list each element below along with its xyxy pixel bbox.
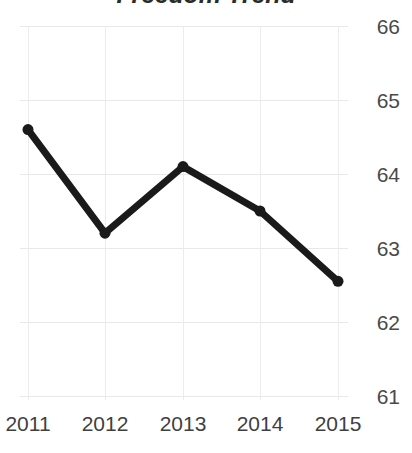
plot-area: 66 65 64 63 62 61 2011 2012 2013 2014 20…	[0, 0, 412, 453]
ytick-label-66: 66	[352, 16, 400, 37]
chart-screenshot: Freedom Trend 66 65 64 63 62 61 2011 201…	[0, 0, 412, 453]
xtick-label-2012: 2012	[65, 412, 145, 436]
series-line-freedom-trend	[0, 0, 412, 453]
ytick-label-64: 64	[352, 164, 400, 185]
xtick-label-2013: 2013	[143, 412, 223, 436]
data-point-2015	[333, 276, 344, 287]
xtick-label-2014: 2014	[220, 412, 300, 436]
line-path	[28, 130, 338, 282]
data-point-2011	[23, 124, 34, 135]
ytick-label-62: 62	[352, 312, 400, 333]
xtick-label-2011: 2011	[0, 412, 68, 436]
data-point-2012	[100, 228, 111, 239]
data-point-2014	[255, 206, 266, 217]
data-point-2013	[178, 161, 189, 172]
ytick-label-65: 65	[352, 90, 400, 111]
xtick-label-2015: 2015	[298, 412, 378, 436]
ytick-label-63: 63	[352, 238, 400, 259]
marker-group	[23, 124, 344, 287]
ytick-label-61: 61	[352, 386, 400, 407]
